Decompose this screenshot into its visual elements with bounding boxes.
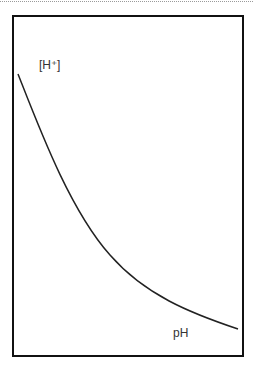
y-axis-label: [H⁺] (39, 58, 60, 72)
x-axis-label: pH (173, 326, 188, 340)
h-ion-curve (0, 0, 253, 367)
